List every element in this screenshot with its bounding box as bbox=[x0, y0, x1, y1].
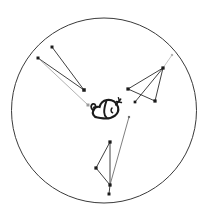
node-ul-c bbox=[82, 88, 86, 92]
figure-canvas bbox=[0, 0, 213, 220]
node-l-b bbox=[94, 166, 97, 169]
node-r-a bbox=[161, 66, 164, 69]
glyph-tick-stroke bbox=[118, 98, 119, 101]
node-l-e bbox=[128, 116, 130, 118]
node-r-e bbox=[171, 54, 173, 56]
node-r-d bbox=[134, 101, 137, 104]
node-l-a bbox=[108, 140, 111, 143]
node-ul-d bbox=[87, 104, 90, 107]
node-r-b bbox=[126, 87, 129, 90]
node-l-c bbox=[108, 183, 111, 186]
node-ul-b bbox=[37, 57, 40, 60]
node-r-c bbox=[153, 99, 156, 102]
circular-node-diagram bbox=[0, 0, 213, 220]
node-l-d bbox=[108, 193, 111, 196]
figure-background bbox=[0, 0, 213, 220]
node-ul-a bbox=[51, 46, 54, 49]
